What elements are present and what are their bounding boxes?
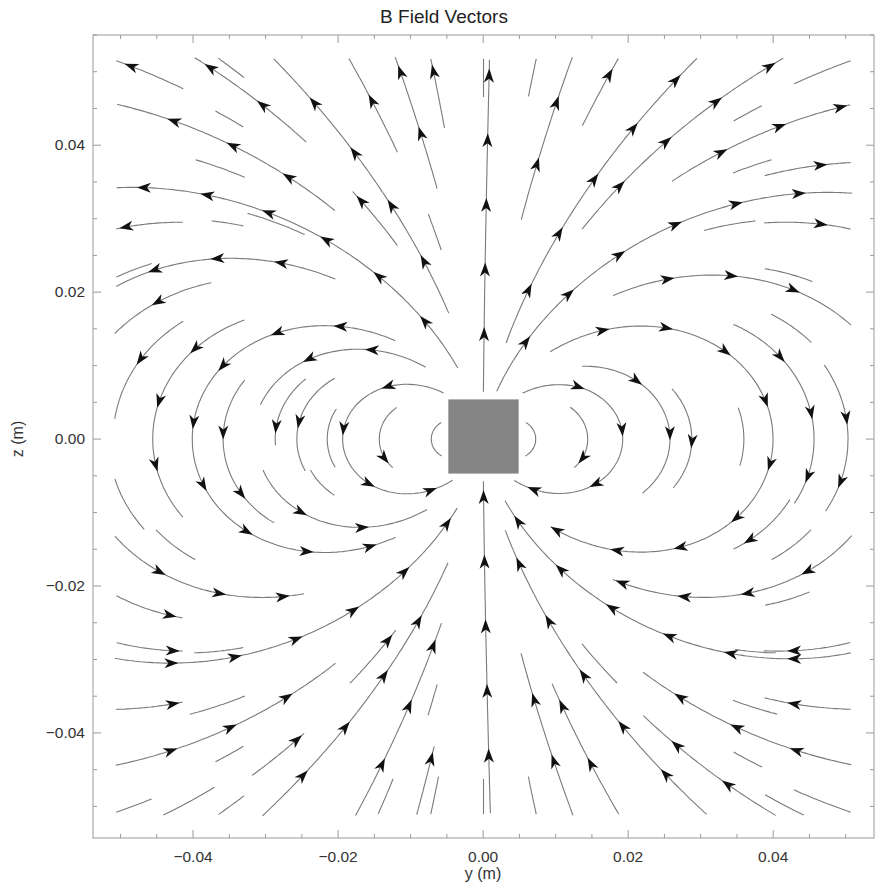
streamline <box>733 700 777 714</box>
streamline <box>349 59 398 153</box>
streamline <box>764 643 850 652</box>
arrowhead-icon <box>296 414 306 429</box>
streamline <box>153 320 245 517</box>
streamline <box>643 672 851 764</box>
streamline <box>428 684 437 715</box>
streamline <box>116 258 335 286</box>
streamline <box>505 530 706 814</box>
streamline <box>115 321 183 419</box>
streamline <box>528 777 536 814</box>
streamline <box>794 61 851 84</box>
arrowhead-icon <box>514 516 526 530</box>
streamline <box>117 104 335 210</box>
streamline <box>343 384 453 494</box>
arrowhead-icon <box>518 336 530 350</box>
arrowhead-icon <box>588 758 599 773</box>
streamline <box>824 365 848 511</box>
streamline <box>514 385 622 494</box>
streamline <box>521 57 572 219</box>
y-tick-label: 0.00 <box>55 430 85 448</box>
arrowhead-icon <box>345 607 360 619</box>
streamline <box>483 481 490 813</box>
streamline <box>613 275 851 325</box>
x-tick-label: −0.04 <box>173 848 212 866</box>
arrowhead-icon <box>617 422 627 436</box>
streamline <box>378 779 393 814</box>
streamline <box>428 214 441 250</box>
arrowhead-icon <box>355 523 369 533</box>
streamline <box>672 389 692 488</box>
arrowhead-icon <box>580 670 592 684</box>
arrowhead-icon <box>238 524 253 535</box>
arrowhead-icon <box>357 196 370 210</box>
streamline <box>261 349 426 405</box>
streamline <box>525 423 535 457</box>
arrowhead-icon <box>278 694 293 706</box>
arrowhead-icon <box>149 457 159 472</box>
arrowhead-icon <box>283 173 298 185</box>
streamline <box>431 423 442 457</box>
streamline <box>771 314 811 342</box>
streamline <box>643 716 775 816</box>
arrowhead-icon <box>601 69 612 84</box>
arrowhead-icon <box>570 380 585 390</box>
arrowhead-icon <box>151 564 166 575</box>
arrowhead-icon <box>674 694 689 706</box>
streamline <box>115 536 304 597</box>
y-tick-label: −0.04 <box>46 724 85 742</box>
streamline <box>115 508 457 663</box>
streamline <box>116 663 336 765</box>
x-tick-label: 0.04 <box>758 848 788 866</box>
y-tick-label: 0.02 <box>55 283 85 301</box>
arrowhead-icon <box>339 421 349 436</box>
arrowhead-icon <box>360 476 375 487</box>
streamline <box>263 470 427 527</box>
streamline <box>672 105 850 181</box>
arrowhead-icon <box>227 143 242 154</box>
arrowhead-icon <box>611 251 626 263</box>
streamline <box>738 408 744 466</box>
arrowhead-icon <box>292 504 307 515</box>
arrowhead-icon <box>369 95 380 110</box>
streamline <box>116 264 151 278</box>
streamline <box>115 479 144 529</box>
arrowhead-icon <box>137 351 149 365</box>
streamline <box>764 222 851 229</box>
streamline <box>733 160 771 173</box>
arrowhead-icon <box>310 98 323 112</box>
arrowhead-icon <box>551 227 563 242</box>
x-tick-label: 0.00 <box>468 848 498 866</box>
magnet-block <box>448 399 518 473</box>
streamline <box>216 111 244 127</box>
streamline <box>521 653 573 815</box>
arrowhead-icon <box>559 700 569 715</box>
arrowhead-icon <box>233 485 246 499</box>
streamline <box>704 221 755 231</box>
arrowhead-icon <box>761 63 776 74</box>
arrowhead-icon <box>205 64 219 76</box>
streamline <box>733 324 814 503</box>
arrowhead-icon <box>551 527 566 538</box>
streamline <box>116 799 151 812</box>
arrowhead-icon <box>272 419 282 434</box>
arrowhead-icon <box>420 316 433 330</box>
streamline <box>327 409 336 467</box>
arrowhead-icon <box>421 255 432 270</box>
streamline <box>734 106 762 121</box>
arrowhead-icon <box>590 477 605 488</box>
arrowhead-icon <box>556 565 570 578</box>
arrowhead-icon <box>422 488 437 498</box>
streamline <box>212 221 244 226</box>
streamline <box>734 752 762 767</box>
arrowhead-icon <box>257 101 271 114</box>
plot-area <box>0 0 888 893</box>
arrowhead-icon <box>388 200 400 215</box>
arrowhead-icon <box>578 450 591 464</box>
arrowhead-icon <box>376 670 388 684</box>
arrowhead-icon <box>672 741 686 754</box>
arrowhead-icon <box>374 272 388 285</box>
arrowhead-icon <box>411 615 422 630</box>
arrowhead-icon <box>625 123 638 137</box>
streamline <box>582 59 618 126</box>
streamline <box>582 366 670 493</box>
